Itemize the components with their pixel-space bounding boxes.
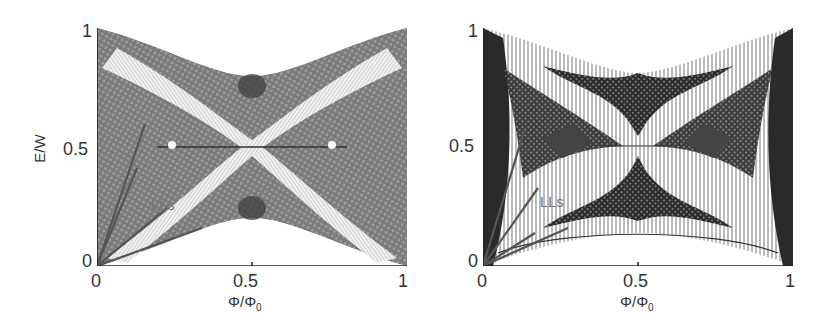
x-tick-0.5: 0.5 bbox=[623, 272, 648, 290]
left-panel: E/W 1 0.5 0 0 0.5 1 Φ/Φ0 bbox=[0, 0, 413, 331]
y-tick-1: 1 bbox=[82, 22, 92, 40]
x-tick-1: 1 bbox=[398, 272, 408, 290]
x-axis-label-main: Φ/Φ bbox=[228, 293, 256, 310]
landau-levels-label: LLs bbox=[540, 194, 564, 210]
left-plot-area bbox=[97, 28, 407, 266]
x-tick-1: 1 bbox=[785, 272, 795, 290]
x-axis-label-sub: 0 bbox=[648, 302, 654, 313]
x-axis-label-main: Φ/Φ bbox=[620, 293, 648, 310]
x-tick-0.5: 0.5 bbox=[233, 272, 258, 290]
y-tick-0.5: 0.5 bbox=[449, 137, 474, 155]
y-tick-0: 0 bbox=[82, 252, 92, 270]
x-axis-label: Φ/Φ0 bbox=[228, 293, 262, 313]
y-tick-1: 1 bbox=[468, 22, 478, 40]
x-tick-0: 0 bbox=[91, 272, 101, 290]
y-tick-0.5: 0.5 bbox=[63, 140, 88, 158]
x-tick-0: 0 bbox=[477, 272, 487, 290]
right-plot-area bbox=[483, 28, 793, 266]
right-panel: 1 0.5 0 0 0.5 1 Φ/Φ0 bbox=[413, 0, 827, 331]
x-axis-label-sub: 0 bbox=[256, 302, 262, 313]
x-axis-label: Φ/Φ0 bbox=[620, 293, 654, 313]
y-tick-0: 0 bbox=[468, 252, 478, 270]
y-axis-label: E/W bbox=[31, 134, 48, 162]
landau-levels-label: LLs bbox=[151, 197, 175, 213]
